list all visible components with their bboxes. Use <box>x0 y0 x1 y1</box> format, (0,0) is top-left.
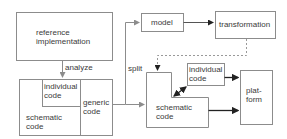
schematic-code-right-label: schematic code <box>156 103 192 121</box>
individual-right-line2: code <box>189 74 222 83</box>
platform-line2: form <box>246 95 262 104</box>
individual-code-right-label: individual code <box>189 65 222 83</box>
schematic-right-line1: schematic <box>156 103 192 112</box>
schematic-right-line2: code <box>156 112 192 121</box>
individual-code-left-label: individual code <box>44 82 77 100</box>
schematic-code-left-label: schematic code <box>26 113 62 131</box>
platform-label: plat- form <box>246 86 262 104</box>
generic-code-label: generic code <box>83 98 109 116</box>
bidirectional-arrow <box>174 87 186 96</box>
generic-line1: generic <box>83 98 109 107</box>
schematic-left-line1: schematic <box>26 113 62 122</box>
individual-left-line1: individual <box>44 82 77 91</box>
platform-line1: plat- <box>246 86 262 95</box>
reference-label-line1: reference <box>36 28 90 37</box>
split-label: split <box>128 64 142 73</box>
individual-right-line1: individual <box>189 65 222 74</box>
individual-left-line2: code <box>44 91 77 100</box>
reference-label-line2: implementation <box>36 37 90 46</box>
generic-line2: code <box>83 107 109 116</box>
analyze-label: analyze <box>65 63 93 72</box>
reference-label: reference implementation <box>36 28 90 46</box>
transformation-label: transformation <box>219 20 270 29</box>
model-label: model <box>151 18 173 27</box>
schematic-left-line2: code <box>26 122 62 131</box>
